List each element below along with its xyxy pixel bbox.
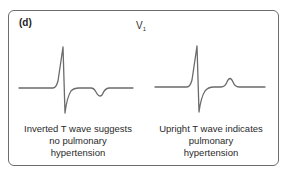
- caption-right-line-3: hypertension: [147, 147, 275, 159]
- lead-sub: 1: [143, 26, 146, 32]
- lead-label: V1: [136, 20, 146, 32]
- caption-left-line-3: hypertension: [14, 147, 142, 159]
- figure-panel: (d) V1 Inverted T wave suggests no pulmo…: [8, 10, 279, 166]
- caption-right: Upright T wave indicates pulmonary hyper…: [147, 123, 275, 159]
- caption-left-line-1: Inverted T wave suggests: [14, 123, 142, 135]
- caption-left-line-2: no pulmonary: [14, 135, 142, 147]
- caption-right-line-2: pulmonary: [147, 135, 275, 147]
- lead-main: V: [136, 20, 143, 31]
- caption-right-line-1: Upright T wave indicates: [147, 123, 275, 135]
- caption-left: Inverted T wave suggests no pulmonary hy…: [14, 123, 142, 159]
- panel-label: (d): [19, 17, 32, 28]
- ecg-upright-t-wave: [151, 41, 279, 125]
- ecg-inverted-t-wave: [15, 41, 143, 125]
